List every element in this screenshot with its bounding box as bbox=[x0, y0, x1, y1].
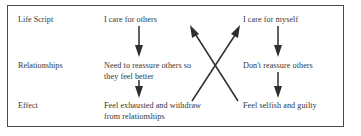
cell-care-for-myself: I care for myself bbox=[243, 15, 353, 26]
row-label-effect: Effect bbox=[18, 101, 38, 112]
row-label-life-script: Life Script bbox=[18, 15, 53, 26]
cell-care-for-others: I care for others bbox=[104, 15, 224, 26]
life-script-diagram: Life Script Relationships Effect I care … bbox=[0, 0, 361, 136]
row-label-relationships: Relationships bbox=[18, 61, 63, 72]
cell-need-to-reassure-others: Need to reassure others so they feel bet… bbox=[104, 61, 219, 82]
cell-dont-reassure-others: Don't reassure others bbox=[243, 61, 353, 72]
cell-feel-exhausted-and-withdraw: Feel exhausted and withdraw from relatio… bbox=[104, 101, 224, 122]
cell-feel-selfish-and-guilty: Feel selfish and guilty bbox=[243, 101, 353, 112]
